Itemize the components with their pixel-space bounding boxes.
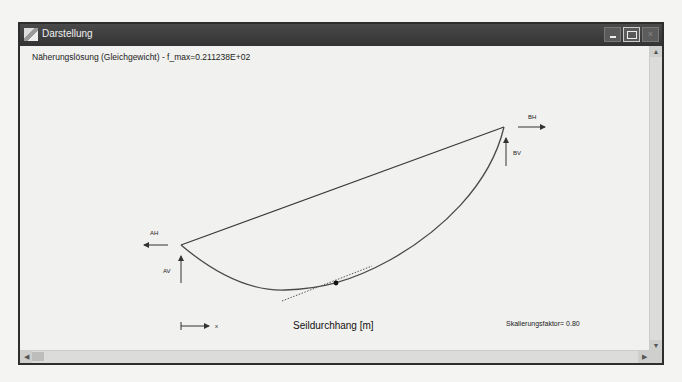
chord-line [181, 127, 504, 245]
window-title: Darstellung [42, 28, 93, 39]
title-bar[interactable]: Darstellung × [20, 24, 662, 46]
scroll-right-button[interactable]: ▶ [638, 351, 650, 363]
plot-area: Näherungslösung (Gleichgewicht) - f_max=… [20, 46, 650, 351]
label-bh: BH [528, 114, 536, 120]
tangent-line [282, 266, 372, 301]
minimize-button[interactable] [604, 27, 621, 42]
horizontal-scroll-thumb[interactable] [32, 352, 44, 361]
scroll-up-button[interactable]: ▲ [650, 46, 662, 57]
arrow-left-icon: ◀ [24, 353, 29, 360]
arrow-right-icon: ▶ [642, 353, 647, 360]
label-bv: BV [513, 150, 521, 156]
darstellung-window: Darstellung × Näherungslösung (Gleichgew… [18, 22, 664, 365]
axis-title: Seildurchhang [m] [293, 320, 374, 331]
scroll-left-button[interactable]: ◀ [20, 351, 32, 363]
app-icon [24, 28, 38, 41]
scale-factor: Skalierungsfaktor= 0.80 [506, 320, 580, 327]
close-button[interactable]: × [642, 27, 659, 42]
arrow-up-icon: ▲ [653, 48, 660, 55]
arrow-down-icon: ▼ [653, 342, 660, 349]
horizontal-scrollbar[interactable]: ◀ ▶ [20, 350, 650, 363]
close-icon: × [648, 29, 653, 39]
scroll-down-button[interactable]: ▼ [650, 340, 662, 351]
label-ah: AH [150, 230, 158, 236]
maximize-button[interactable] [623, 27, 640, 42]
label-x-axis: x [215, 323, 218, 329]
vertical-scrollbar[interactable]: ▲ ▼ [649, 46, 662, 351]
cable-sag-drawing [20, 46, 652, 342]
max-sag-point [334, 281, 339, 286]
cable-curve [181, 127, 504, 290]
label-av: AV [163, 268, 171, 274]
scrollbar-corner [650, 351, 662, 363]
